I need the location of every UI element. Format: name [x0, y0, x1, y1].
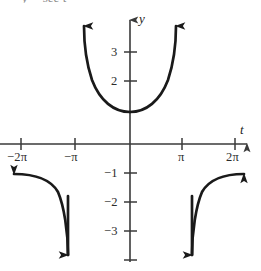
y-tick-label-neg1: −1: [104, 167, 118, 180]
x-tick-label-negpi: −π: [64, 151, 78, 164]
curve-right-branch: [192, 174, 244, 255]
y-axis-label: y: [139, 12, 145, 25]
y-axis: [124, 20, 137, 262]
curve-left-branch: [14, 174, 68, 255]
graph-canvas: [0, 0, 261, 271]
y-tick-label-3: 3: [111, 46, 117, 59]
y-tick-label-neg2: −2: [104, 196, 118, 209]
figure-container: y = sec t: [0, 0, 261, 271]
x-axis: [0, 138, 247, 150]
x-axis-label: t: [240, 123, 244, 136]
y-tick-label-2: 2: [111, 75, 117, 88]
x-tick-label-pi: π: [178, 151, 185, 164]
y-tick-label-neg3: −3: [104, 225, 118, 238]
x-tick-label-2pi: 2π: [226, 151, 239, 164]
x-tick-label-neg2pi: −2π: [7, 151, 27, 164]
